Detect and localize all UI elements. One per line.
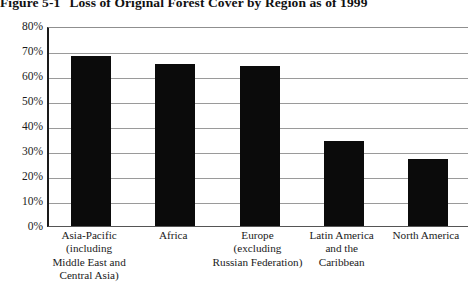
y-axis-tick-label: 50% <box>22 96 43 108</box>
category-label-line: (excluding <box>209 242 305 255</box>
y-axis-tick-label: 60% <box>22 71 43 83</box>
y-axis-tick-label: 20% <box>22 171 43 183</box>
x-axis-category-label: Latin Americaand theCaribbean <box>294 229 390 269</box>
y-axis-tick-label: 80% <box>22 21 43 33</box>
category-label-line: Middle East and <box>41 256 137 269</box>
category-label-line: Central Asia) <box>41 269 137 282</box>
category-label-line: Africa <box>125 229 221 242</box>
x-axis-category-label: Europe(excludingRussian Federation) <box>209 229 305 269</box>
y-axis-tick-label: 30% <box>22 146 43 158</box>
bar <box>155 64 195 227</box>
x-axis: Asia-Pacific(includingMiddle East andCen… <box>47 229 468 293</box>
y-axis-tick-label: 40% <box>22 121 43 133</box>
y-axis-tick-label: 70% <box>22 46 43 58</box>
category-label-line: Caribbean <box>294 256 390 269</box>
gridline <box>49 53 468 54</box>
category-label-line: (including <box>41 242 137 255</box>
y-axis: 80%70%60%50%40%30%20%10%0% <box>0 27 43 227</box>
bar <box>408 159 448 227</box>
figure-title: Figure 5-1Loss of Original Forest Cover … <box>0 0 468 13</box>
x-axis-category-label: North America <box>378 229 468 242</box>
bar <box>324 141 364 226</box>
bar <box>240 66 280 226</box>
bar <box>71 56 111 226</box>
y-axis-tick-label: 10% <box>22 196 43 208</box>
category-label-line: Russian Federation) <box>209 256 305 269</box>
category-label-line: North America <box>378 229 468 242</box>
figure-title-text: Loss of Original Forest Cover by Region … <box>69 0 367 10</box>
category-label-line: and the <box>294 242 390 255</box>
x-axis-category-label: Asia-Pacific(includingMiddle East andCen… <box>41 229 137 283</box>
figure-number: Figure 5-1 <box>0 0 60 10</box>
category-label-line: Latin America <box>294 229 390 242</box>
category-label-line: Asia-Pacific <box>41 229 137 242</box>
category-label-line: Europe <box>209 229 305 242</box>
plot-area <box>47 27 468 227</box>
x-axis-category-label: Africa <box>125 229 221 242</box>
bar-chart: 80%70%60%50%40%30%20%10%0% Asia-Pacific(… <box>0 16 468 293</box>
